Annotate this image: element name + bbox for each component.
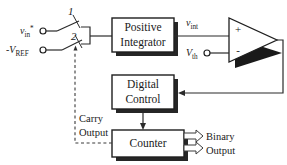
vref-subscript: REF [15,50,28,58]
counter-input-arrow-icon [140,123,146,130]
comparator-plus-label: + [235,23,241,35]
vint-label: vint [186,17,198,31]
binary-output-label-line1: Binary [206,131,235,142]
switch-label-1: 1 [68,5,74,17]
switch-output-bracket [81,27,90,44]
vth-subscript: th [192,53,198,61]
binary-output-label-line2: Output [206,145,235,156]
vth-terminal-icon [204,50,210,56]
switch-label-2: 2 [71,30,77,42]
diagram-canvas: 1 2 vin* -VREF Positive Integrator vint … [0,0,287,165]
digital-control-input-arrow-icon [178,90,185,96]
carry-output-label-line1: Carry [79,113,104,124]
switch-control-arrow-icon [74,46,78,51]
counter-label: Counter [129,137,166,149]
vint-subscript: int [190,23,198,31]
integrator-label-line1: Positive [124,21,161,33]
block-diagram: 1 2 vin* -VREF Positive Integrator vint … [0,0,287,165]
integrator-label-line2: Integrator [120,36,166,49]
vin-superscript: * [30,25,34,33]
vin-label: vin* [20,25,34,39]
vref-label: -VREF [6,44,29,58]
vth-label: Vth [186,47,198,61]
digital-control-label-line1: Digital [127,78,159,91]
vref-terminal-icon [40,47,46,53]
vin-terminal-icon [40,28,46,34]
carry-output-label-line2: Output [79,127,108,138]
digital-control-label-line2: Control [125,93,160,105]
comparator-minus-label: - [236,44,240,56]
